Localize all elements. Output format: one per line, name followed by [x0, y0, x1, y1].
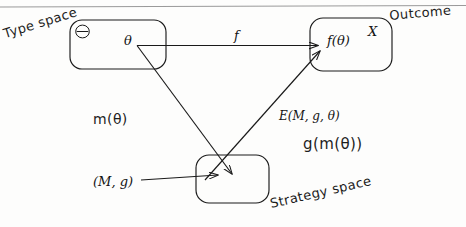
edge-label-f: f	[234, 28, 239, 43]
arrow-mechanism-to-strategy	[141, 175, 218, 180]
edge-label-mechanism-pair: (M, g)	[93, 174, 133, 189]
edge-label-m-theta: m(θ)	[93, 111, 128, 127]
node-box-strategy-space	[196, 155, 269, 203]
arrow-theta-to-strategy	[137, 46, 232, 175]
diagram-graphics	[0, 0, 466, 227]
node-box-outcome	[310, 18, 392, 71]
node-element-label-theta: θ	[124, 33, 132, 48]
edge-label-expected-utility: E(M, g, θ)	[279, 109, 340, 123]
diagram-canvas: Type space Outcome Strategy space θ f(θ)…	[0, 0, 466, 227]
node-box-type-space	[70, 20, 166, 69]
edge-label-g-m-theta: g(m(θ))	[303, 135, 363, 153]
node-element-label-f-theta: f(θ)	[327, 33, 350, 48]
node-corner-label-outcome-set: X	[368, 24, 377, 39]
